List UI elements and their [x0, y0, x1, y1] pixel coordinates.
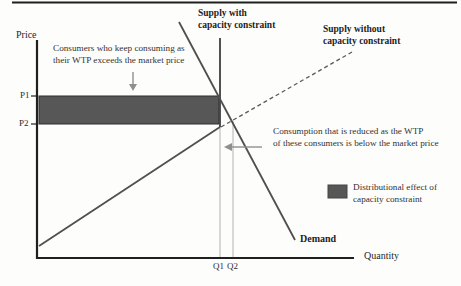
- keep-consuming-annotation: Consumers who keep consuming as their WT…: [53, 43, 185, 66]
- y-axis-title: Price: [16, 29, 37, 41]
- supply-without-constraint-label-line2: capacity constraint: [323, 36, 400, 48]
- down-arrow-head-icon: [129, 84, 137, 91]
- legend-label-line1: Distributional effect of: [353, 182, 437, 194]
- supply-with-constraint-rising-segment: [39, 127, 220, 246]
- figure-canvas: Price Quantity P1 P2 Q1 Q2 Supply with c…: [0, 0, 461, 286]
- keep-consuming-annotation-line1: Consumers who keep consuming as: [53, 43, 185, 55]
- reduced-consumption-annotation-line2: of these consumers is below the market p…: [273, 138, 439, 150]
- supply-without-constraint-label-line1: Supply without: [323, 24, 400, 36]
- p1-tick-label: P1: [20, 90, 30, 102]
- demand-label: Demand: [300, 233, 336, 245]
- p2-tick-label: P2: [19, 118, 29, 130]
- legend-label-line2: capacity constraint: [353, 194, 437, 206]
- left-arrow-head-icon: [224, 143, 232, 151]
- supply-with-constraint-label-line1: Supply with: [198, 8, 275, 20]
- x-axis-title: Quantity: [364, 250, 399, 262]
- q2-tick-label: Q2: [227, 261, 238, 273]
- supply-with-constraint-label: Supply with capacity constraint: [198, 8, 275, 31]
- supply-without-constraint-dashed-line: [221, 52, 352, 127]
- reduced-consumption-annotation-line1: Consumption that is reduced as the WTP: [273, 126, 439, 138]
- q1-tick-label: Q1: [213, 261, 224, 273]
- reduced-consumption-annotation: Consumption that is reduced as the WTP o…: [273, 126, 439, 149]
- distributional-effect-region: [39, 96, 219, 124]
- supply-with-constraint-label-line2: capacity constraint: [198, 20, 275, 32]
- supply-without-constraint-label: Supply without capacity constraint: [323, 24, 400, 47]
- keep-consuming-annotation-line2: their WTP exceeds the market price: [53, 55, 185, 67]
- legend-label: Distributional effect of capacity constr…: [353, 182, 437, 205]
- legend-swatch: [328, 185, 347, 198]
